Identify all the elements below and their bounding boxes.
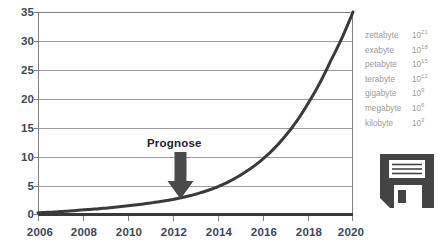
legend-row: exabyte1018 (365, 46, 445, 61)
legend-unit-magnitude: 103 (412, 119, 424, 128)
x-axis-label-2008: 2008 (61, 226, 107, 238)
x-axis-label-2010: 2010 (106, 226, 152, 238)
legend-unit-magnitude: 1021 (412, 31, 428, 40)
legend-unit-magnitude: 1012 (412, 75, 428, 84)
legend-unit-name: megabyte (365, 104, 412, 113)
x-axis-label-2014: 2014 (196, 226, 242, 238)
legend-row: megabyte106 (365, 104, 445, 119)
legend-unit-name: terabyte (365, 75, 412, 84)
floppy-shutter-slider (398, 190, 406, 203)
x-axis-tick-labels: 2006 2008 2010 2012 2014 2016 2018 2020 (0, 0, 360, 249)
legend-unit-magnitude: 109 (412, 89, 424, 98)
legend-row: kilobyte103 (365, 119, 445, 134)
legend-row: terabyte1012 (365, 75, 445, 90)
legend-unit-name: zettabyte (365, 31, 412, 40)
legend-unit-magnitude: 106 (412, 104, 424, 113)
legend-row: zettabyte1021 (365, 31, 445, 46)
chart-area: 35 30 25 20 15 10 5 0 2006 2008 2010 201… (0, 0, 360, 249)
legend-row: petabyte1015 (365, 60, 445, 75)
x-axis-label-2016: 2016 (241, 226, 287, 238)
x-axis-label-2012: 2012 (151, 226, 197, 238)
x-axis-label-2006: 2006 (17, 226, 63, 238)
legend-unit-name: gigabyte (365, 89, 412, 98)
legend-unit-magnitude: 1018 (412, 46, 428, 55)
legend-panel: zettabyte1021exabyte1018petabyte1015tera… (360, 0, 445, 249)
legend-unit-name: petabyte (365, 60, 412, 69)
x-axis-label-2018: 2018 (286, 226, 332, 238)
legend-unit-name: exabyte (365, 46, 412, 55)
legend-unit-magnitude: 1015 (412, 60, 428, 69)
legend-row: gigabyte109 (365, 89, 445, 104)
storage-unit-legend: zettabyte1021exabyte1018petabyte1015tera… (365, 31, 445, 133)
chart-screenshot: 35 30 25 20 15 10 5 0 2006 2008 2010 201… (0, 0, 445, 249)
legend-unit-name: kilobyte (365, 119, 412, 128)
floppy-disk-icon (378, 152, 436, 210)
prognose-annotation-label: Prognose (147, 137, 202, 149)
